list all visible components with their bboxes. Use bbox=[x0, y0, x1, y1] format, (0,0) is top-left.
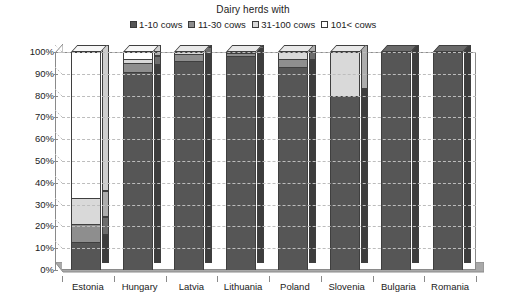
gridline bbox=[62, 248, 476, 249]
gridline bbox=[62, 226, 476, 227]
y-axis-tick-label: 60% bbox=[18, 133, 54, 144]
y-axis-tick-label: 10% bbox=[18, 242, 54, 253]
bar-segment-side-face bbox=[412, 45, 419, 263]
legend-label: 1-10 cows bbox=[139, 19, 182, 30]
bar-top-face-shape bbox=[123, 45, 159, 52]
bar-segment-side-face bbox=[154, 56, 161, 65]
gridline-depth-connector bbox=[55, 154, 64, 163]
x-axis-tick-mark bbox=[166, 276, 167, 282]
gridline-depth-connector bbox=[55, 89, 64, 98]
bar-segment bbox=[278, 67, 308, 270]
legend-label: 101< cows bbox=[331, 19, 377, 30]
bar-top-face bbox=[71, 45, 101, 52]
legend-swatch-dark-icon bbox=[130, 21, 137, 28]
gridline-depth-connector bbox=[55, 176, 64, 185]
bar-top-face bbox=[433, 45, 463, 52]
chart-title: Dairy herds with bbox=[0, 4, 506, 15]
bar-segment-side-face bbox=[154, 65, 161, 263]
legend-item: 11-30 cows bbox=[188, 19, 245, 30]
legend-item: 101< cows bbox=[321, 19, 376, 30]
y-axis-tick-label: 40% bbox=[18, 177, 54, 188]
gridline-depth-connector bbox=[55, 45, 64, 54]
x-axis-tick-label: Lithuania bbox=[217, 281, 269, 292]
x-axis-tick-mark bbox=[321, 276, 322, 282]
bar-segment-side-face bbox=[361, 89, 368, 263]
bar-segment bbox=[226, 53, 256, 56]
x-axis-tick-label: Latvia bbox=[166, 281, 218, 292]
legend-label: 11-30 cows bbox=[198, 19, 246, 30]
bar-segment bbox=[123, 59, 153, 63]
legend-swatch-medium-icon bbox=[188, 21, 195, 28]
x-axis-tick-label: Romania bbox=[424, 281, 476, 292]
x-axis-tick-mark bbox=[373, 276, 374, 282]
x-axis-tick-mark bbox=[217, 276, 218, 282]
gridline-depth-connector bbox=[55, 132, 64, 141]
gridline-depth-connector bbox=[55, 219, 64, 228]
bar-segment-side-face bbox=[464, 45, 471, 263]
x-axis-tick-label: Slovenia bbox=[321, 281, 373, 292]
y-axis-tick-label: 30% bbox=[18, 199, 54, 210]
legend-swatch-white-icon bbox=[321, 21, 328, 28]
legend-label: 31-100 cows bbox=[261, 19, 315, 30]
bar-segment bbox=[174, 54, 204, 61]
y-axis-tick-label: 70% bbox=[18, 111, 54, 122]
x-axis-tick-label: Bulgaria bbox=[373, 281, 425, 292]
y-axis-tick-label: 80% bbox=[18, 90, 54, 101]
x-axis-tick-mark bbox=[269, 276, 270, 282]
gridline bbox=[62, 161, 476, 162]
x-axis-tick-mark bbox=[476, 276, 477, 282]
gridline-depth-connector bbox=[55, 67, 64, 76]
legend-swatch-light-icon bbox=[252, 21, 259, 28]
bar-top-face bbox=[330, 45, 360, 52]
bar-top-face bbox=[174, 45, 204, 52]
bar-top-face bbox=[381, 45, 411, 52]
gridline-depth-connector bbox=[55, 241, 64, 250]
bar-segment bbox=[71, 198, 101, 224]
x-axis: EstoniaHungaryLatviaLithuaniaPolandSlove… bbox=[55, 281, 484, 301]
bar-segment bbox=[123, 72, 153, 270]
gridline bbox=[62, 117, 476, 118]
gridline bbox=[62, 205, 476, 206]
bar-top-face bbox=[226, 45, 256, 52]
gridline bbox=[62, 139, 476, 140]
gridline bbox=[62, 74, 476, 75]
x-axis-tick-mark bbox=[62, 276, 63, 282]
bar-segment-side-face bbox=[257, 49, 264, 263]
y-axis-tick-label: 90% bbox=[18, 68, 54, 79]
bar-top-face-shape bbox=[71, 45, 107, 52]
bar-segment-side-face bbox=[205, 54, 212, 263]
bar-segment bbox=[278, 59, 308, 68]
x-axis-tick-mark bbox=[424, 276, 425, 282]
bar-top-face bbox=[123, 45, 153, 52]
y-axis-tick-label: 50% bbox=[18, 155, 54, 166]
bar-top-face-shape bbox=[330, 45, 366, 52]
bar-top-face bbox=[278, 45, 308, 52]
x-axis-tick-label: Poland bbox=[269, 281, 321, 292]
gridline-depth-connector bbox=[55, 110, 64, 119]
gridline bbox=[62, 96, 476, 97]
bar-top-face-shape bbox=[278, 45, 314, 52]
y-axis-tick-label: 100% bbox=[18, 46, 54, 57]
chart-legend: 1-10 cows11-30 cows31-100 cows101< cows bbox=[0, 19, 506, 30]
x-axis-tick-label: Estonia bbox=[62, 281, 114, 292]
x-axis-tick-label: Hungary bbox=[114, 281, 166, 292]
y-axis: 0%10%20%30%40%50%60%70%80%90%100% bbox=[8, 0, 54, 307]
gridline bbox=[62, 183, 476, 184]
bar-segment bbox=[174, 61, 204, 270]
y-axis-tick-mark bbox=[54, 270, 58, 271]
bar-segment bbox=[71, 242, 101, 270]
bar-segment bbox=[123, 63, 153, 72]
y-axis-tick-label: 0% bbox=[18, 264, 54, 275]
chart-container: Dairy herds with 1-10 cows11-30 cows31-1… bbox=[0, 0, 506, 307]
x-axis-tick-mark bbox=[114, 276, 115, 282]
legend-item: 31-100 cows bbox=[252, 19, 315, 30]
y-axis-tick-label: 20% bbox=[18, 220, 54, 231]
gridline-depth-connector bbox=[55, 198, 64, 207]
legend-item: 1-10 cows bbox=[130, 19, 183, 30]
bar-segment bbox=[226, 56, 256, 270]
gridline bbox=[62, 52, 476, 53]
